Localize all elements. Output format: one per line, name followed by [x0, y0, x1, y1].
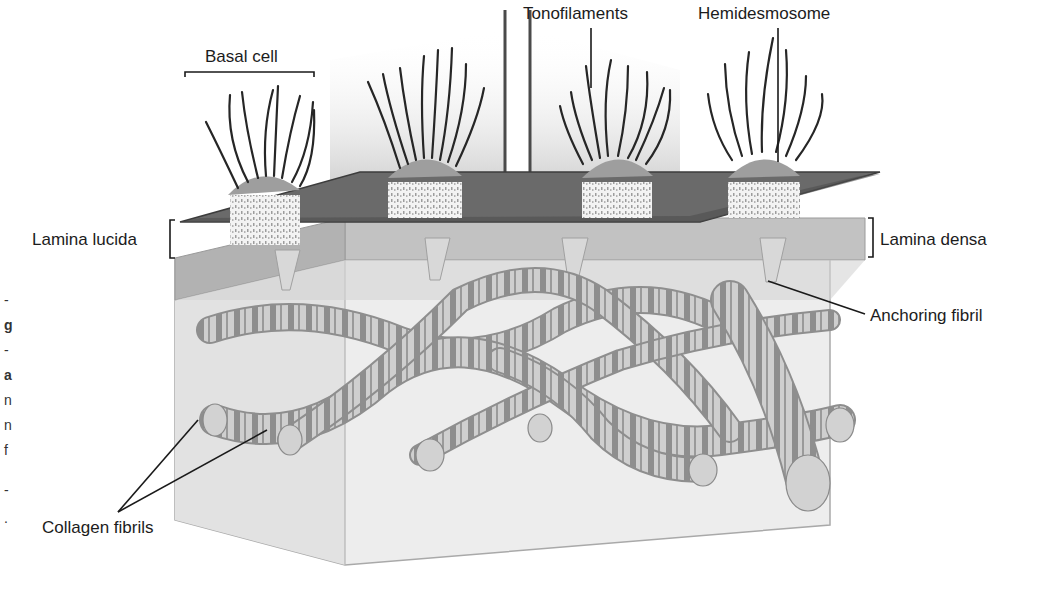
lamina-densa-bracket — [868, 218, 873, 257]
caption-fragment: n — [4, 417, 12, 433]
caption-fragment: n — [4, 392, 12, 408]
label-lamina-lucida: Lamina lucida — [32, 230, 137, 250]
basal-cell-bracket — [185, 72, 314, 77]
caption-fragment: g — [4, 317, 13, 333]
label-collagen-fibrils: Collagen fibrils — [42, 518, 154, 538]
caption-fragment: a — [4, 367, 12, 383]
label-anchoring-fibril: Anchoring fibril — [870, 306, 982, 326]
caption-fragment: - — [4, 292, 9, 308]
label-lamina-densa: Lamina densa — [880, 230, 987, 250]
label-basal-cell: Basal cell — [205, 47, 278, 67]
tonofilaments — [206, 38, 822, 188]
caption-fragment: - — [4, 342, 9, 358]
caption-fragment: - — [4, 482, 9, 498]
label-tonofilaments: Tonofilaments — [523, 4, 628, 24]
label-hemidesmosome: Hemidesmosome — [698, 4, 830, 24]
basement-membrane-diagram — [0, 0, 1045, 595]
lamina-lucida-bracket — [170, 220, 175, 258]
caption-fragment: . — [4, 510, 8, 526]
caption-fragment: f — [4, 442, 8, 458]
